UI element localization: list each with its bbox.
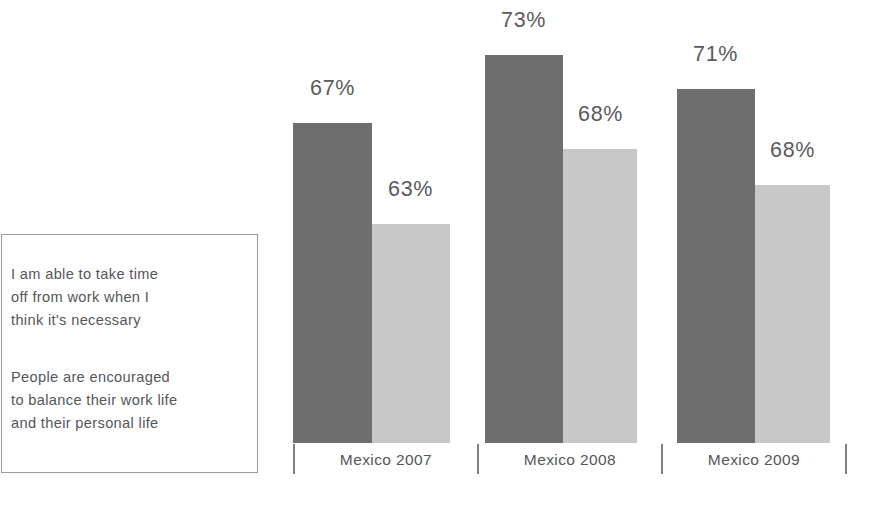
bar-value-mexico-2007-series-2: 63% <box>371 179 450 201</box>
bar-mexico-2007-series-2 <box>372 224 450 443</box>
bar-chart: I am able to take time off from work whe… <box>0 0 885 510</box>
bar-mexico-2009-series-2 <box>755 185 830 443</box>
bar-value-mexico-2008-series-2: 68% <box>561 104 640 126</box>
axis-label-mexico-2009: Mexico 2009 <box>663 450 845 470</box>
axis-label-mexico-2007: Mexico 2007 <box>295 450 477 470</box>
bar-value-mexico-2009-series-1: 71% <box>676 44 755 66</box>
bar-mexico-2007-series-1 <box>293 123 372 443</box>
axis-label-mexico-2008: Mexico 2008 <box>479 450 661 470</box>
bar-mexico-2009-series-1 <box>677 89 755 443</box>
axis-tick-3 <box>845 444 847 474</box>
bar-mexico-2008-series-2 <box>563 149 637 443</box>
bar-value-mexico-2008-series-1: 73% <box>484 10 563 32</box>
bar-value-mexico-2007-series-1: 67% <box>293 78 372 100</box>
bar-value-mexico-2009-series-2: 68% <box>753 140 832 162</box>
plot-area: 67% 63% 73% 68% 71% 68% Mexico 2007 Mexi… <box>0 0 885 510</box>
bar-mexico-2008-series-1 <box>485 55 563 443</box>
